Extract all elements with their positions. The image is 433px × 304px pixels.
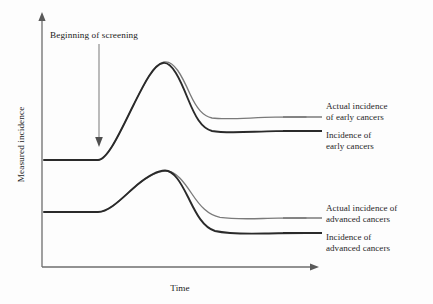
legend-line-2: early cancers <box>326 141 374 152</box>
legend-label-incidence-early-cancers: Incidence of early cancers <box>326 130 374 152</box>
incidence-screening-figure: Beginning of screening Measured incidenc… <box>0 0 433 304</box>
plot-area <box>0 0 433 304</box>
legend-line-1: Actual incidence <box>326 101 388 112</box>
legend-line-2: advanced cancers <box>326 243 390 254</box>
legend-line-1: Actual incidence of <box>326 203 397 214</box>
legend-connector-lines <box>283 117 322 233</box>
legend-line-1: Incidence of <box>326 130 374 141</box>
legend-line-2: advanced cancers <box>326 214 397 225</box>
screening-start-arrow <box>95 44 103 147</box>
legend-line-2: of early cancers <box>326 112 388 123</box>
x-axis-arrowhead <box>310 263 319 270</box>
y-axis-label: Measured incidence <box>16 84 27 204</box>
x-axis-label: Time <box>150 283 210 294</box>
legend-label-actual-advanced-cancers: Actual incidence of advanced cancers <box>326 203 397 225</box>
y-axis-arrowhead <box>38 12 45 21</box>
curve-incidence-advanced-cancers <box>44 171 306 234</box>
screening-annotation-label: Beginning of screening <box>50 30 138 41</box>
axes-group <box>38 12 319 271</box>
legend-line-1: Incidence of <box>326 232 390 243</box>
curve-incidence-early-cancers <box>44 63 306 160</box>
legend-label-actual-early-cancers: Actual incidence of early cancers <box>326 101 388 123</box>
legend-label-incidence-advanced-cancers: Incidence of advanced cancers <box>326 232 390 254</box>
screening-arrow-head <box>95 137 103 147</box>
curve-actual-early-cancers <box>44 62 306 160</box>
